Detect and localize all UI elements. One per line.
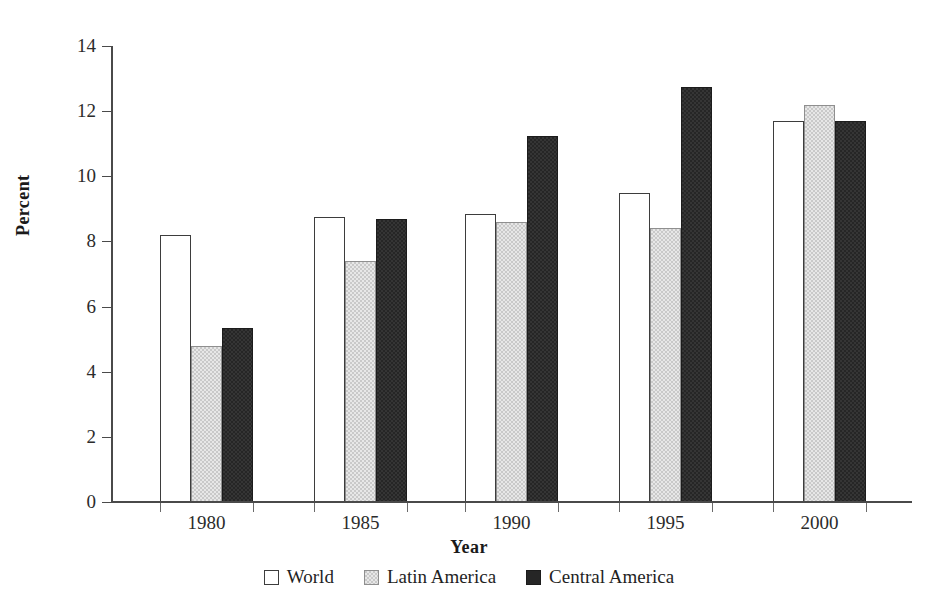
x-axis-title: Year [0,537,938,558]
plot-area [112,46,912,502]
legend-swatch-icon [364,570,379,585]
bar-1985-world [314,217,345,502]
y-tick-label: 14 [56,36,96,55]
bar-2000-central-america [835,121,866,502]
x-category-label-1995: 1995 [606,512,726,534]
y-tick-label: 12 [56,101,96,120]
bar-1985-latin-america [345,261,376,502]
y-tick-mark [102,437,111,438]
y-tick-label: 2 [56,427,96,446]
bar-1990-world [465,214,496,502]
y-tick-mark [102,46,111,47]
x-category-label-1990: 1990 [452,512,572,534]
y-tick-mark [102,111,111,112]
legend-swatch-icon [264,570,279,585]
y-tick-mark [102,307,111,308]
bar-1995-world [619,193,650,502]
legend-item-latin-america: Latin America [364,566,496,588]
bar-1980-world [160,235,191,502]
bar-chart: Percent 02468101214 19801985199019952000… [0,0,938,613]
y-tick-12: 12 [0,111,112,112]
y-tick-label: 6 [56,297,96,316]
bar-1980-latin-america [191,346,222,502]
x-category-label-1980: 1980 [147,512,267,534]
y-tick-0: 0 [0,502,112,503]
legend-swatch-icon [526,570,541,585]
bar-1995-latin-america [650,228,681,502]
x-tick-mark [558,503,559,512]
y-tick-mark [102,241,111,242]
y-tick-10: 10 [0,176,112,177]
y-tick-label: 0 [56,492,96,511]
y-tick-14: 14 [0,46,112,47]
y-tick-label: 8 [56,231,96,250]
legend-item-world: World [264,566,334,588]
y-tick-label: 4 [56,362,96,381]
bar-2000-latin-america [804,105,835,502]
bar-1995-central-america [681,87,712,502]
bar-1980-central-america [222,328,253,502]
legend-item-central-america: Central America [526,566,674,588]
y-tick-6: 6 [0,307,112,308]
x-tick-mark [619,503,620,512]
y-tick-2: 2 [0,437,112,438]
x-tick-mark [712,503,713,512]
y-tick-label: 10 [56,166,96,185]
bar-1985-central-america [376,219,407,502]
x-tick-mark [866,503,867,512]
x-tick-mark [160,503,161,512]
x-category-label-1985: 1985 [301,512,421,534]
x-tick-mark [407,503,408,512]
legend-label: Central America [549,566,674,588]
y-tick-8: 8 [0,241,112,242]
bar-1990-central-america [527,136,558,502]
bar-2000-world [773,121,804,502]
y-tick-4: 4 [0,372,112,373]
x-axis-line [111,501,912,503]
y-tick-mark [102,176,111,177]
x-category-label-2000: 2000 [760,512,880,534]
legend-label: Latin America [387,566,496,588]
x-tick-mark [465,503,466,512]
y-axis-title: Percent [13,175,34,236]
x-tick-mark [773,503,774,512]
chart-legend: WorldLatin AmericaCentral America [0,566,938,588]
bar-1990-latin-america [496,222,527,502]
legend-label: World [287,566,334,588]
x-tick-mark [314,503,315,512]
y-tick-mark [102,372,111,373]
y-tick-mark [102,502,111,503]
x-tick-mark [253,503,254,512]
